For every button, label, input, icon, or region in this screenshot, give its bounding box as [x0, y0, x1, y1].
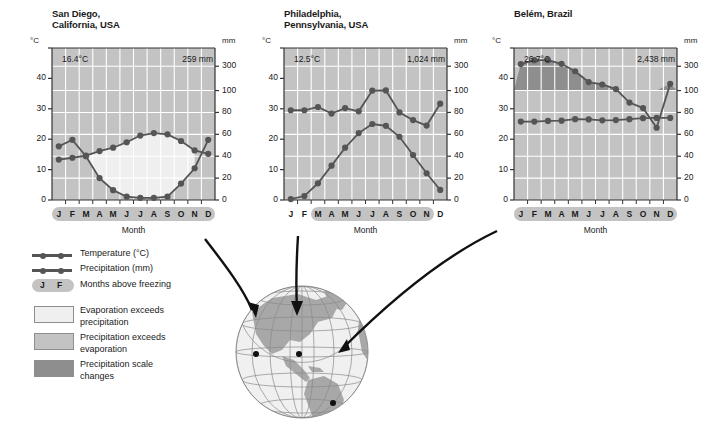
precipitation-point [301, 107, 307, 113]
precipitation-point [586, 79, 592, 85]
axis-tick-label-precipitation: 40 [222, 150, 248, 160]
month-label-n-10: N [651, 209, 663, 219]
plot-area [480, 8, 712, 238]
temperature-point [342, 145, 348, 151]
precipitation-point [369, 87, 375, 93]
axis-unit-celsius: °C [262, 36, 271, 45]
axis-tick-label-precipitation: 20 [684, 172, 710, 182]
temperature-point [558, 118, 564, 124]
axis-tick-label-temperature: 20 [258, 133, 278, 143]
mean-temperature-label: 12.5°C [294, 54, 320, 64]
axis-tick-label-temperature: 20 [26, 133, 46, 143]
month-label-s-8: S [393, 209, 405, 219]
precipitation-point [558, 61, 564, 67]
temperature-point [667, 115, 673, 121]
evaporation-exceeds-swatch [34, 306, 74, 323]
temperature-point [164, 131, 170, 137]
temperature-point [83, 153, 89, 159]
temperature-point [437, 187, 443, 193]
temperature-point [369, 121, 375, 127]
axis-tick-label-precipitation: 300 [684, 60, 710, 70]
month-label-j-0: J [285, 209, 297, 219]
legend-label: Temperature (°C) [80, 248, 149, 260]
precipitation-point [410, 117, 416, 123]
month-label-o-9: O [175, 209, 187, 219]
temperature-point [192, 147, 198, 153]
month-label-m-4: M [339, 209, 351, 219]
above-freezing-month-f: F [57, 280, 62, 290]
month-label-m-2: M [80, 209, 92, 219]
x-axis-title: Month [514, 225, 677, 235]
axis-tick-label-precipitation: 0 [454, 194, 480, 204]
temperature-point [396, 134, 402, 140]
axis-tick-label-temperature: 30 [26, 103, 46, 113]
temperature-point [356, 130, 362, 136]
month-label-j-6: J [366, 209, 378, 219]
axis-tick-label-temperature: 0 [258, 194, 278, 204]
legend-label: Precipitation scale changes [80, 359, 153, 382]
x-axis-title: Month [284, 225, 447, 235]
legend-label: Precipitation exceeds evaporation [80, 332, 166, 355]
legend-item-precipitation-exceeds: Precipitation exceeds evaporation [24, 331, 234, 355]
axis-tick-label-temperature: 40 [488, 72, 508, 82]
month-label-a-7: A [380, 209, 392, 219]
axis-tick-label-temperature: 10 [258, 164, 278, 174]
globe-dot-philadelphia [296, 351, 302, 357]
month-label-j-5: J [121, 209, 133, 219]
month-label-a-7: A [610, 209, 622, 219]
precipitation-point [437, 101, 443, 107]
temperature-point [626, 116, 632, 122]
axis-tick-label-precipitation: 80 [222, 106, 248, 116]
legend-item-evaporation-exceeds: Evaporation exceeds precipitation [24, 304, 234, 328]
temperature-marker-icon [58, 253, 64, 259]
globe-inset [212, 268, 392, 428]
climograph-san-diego: San Diego, California, USA °Cmm010203040… [18, 8, 248, 238]
axis-tick-label-temperature: 10 [26, 164, 46, 174]
precipitation-point [96, 175, 102, 181]
axis-unit-millimetres: mm [684, 36, 697, 45]
temperature-point [572, 116, 578, 122]
month-label-a-3: A [326, 209, 338, 219]
total-precipitation-label: 259 mm [153, 54, 213, 64]
temperature-point [654, 115, 660, 121]
precipitation-point [599, 81, 605, 87]
month-label-o-9: O [407, 209, 419, 219]
temperature-point [288, 196, 294, 202]
precipitation-point [328, 110, 334, 116]
precipitation-point [572, 68, 578, 74]
precipitation-point [424, 122, 430, 128]
month-label-o-9: O [637, 209, 649, 219]
precipitation-line-swatch [32, 269, 72, 272]
total-precipitation-label: 1,024 mm [385, 54, 445, 64]
temperature-point [315, 180, 321, 186]
precipitation-point [356, 108, 362, 114]
axis-unit-celsius: °C [30, 36, 39, 45]
axis-unit-celsius: °C [492, 36, 501, 45]
temperature-point [56, 156, 62, 162]
precipitation-point [383, 87, 389, 93]
temperature-point [640, 115, 646, 121]
month-label-a-7: A [148, 209, 160, 219]
climate-figure: San Diego, California, USA °Cmm010203040… [0, 0, 724, 432]
month-label-d-11: D [664, 209, 676, 219]
legend-label: Evaporation exceeds precipitation [80, 305, 164, 328]
precipitation-point [288, 107, 294, 113]
precipitation-point [518, 61, 524, 67]
precipitation-point [640, 105, 646, 111]
scale-changes-swatch [34, 360, 74, 377]
month-label-n-10: N [421, 209, 433, 219]
legend-item-above-freezing: J F Months above freezing [24, 278, 234, 296]
temperature-point [110, 145, 116, 151]
legend-label: Months above freezing [80, 279, 171, 291]
plot-area [250, 8, 482, 238]
climograph-philadelphia: Philadelphia, Pennsylvania, USA °Cmm0102… [250, 8, 480, 238]
month-label-j-0: J [515, 209, 527, 219]
month-label-d-11: D [202, 209, 214, 219]
month-label-j-5: J [583, 209, 595, 219]
axis-tick-label-precipitation: 20 [222, 172, 248, 182]
globe-dot-san-diego [253, 351, 259, 357]
axis-tick-label-temperature: 0 [26, 194, 46, 204]
temperature-point [301, 193, 307, 199]
month-label-m-2: M [542, 209, 554, 219]
axis-tick-label-precipitation: 100 [454, 85, 480, 95]
